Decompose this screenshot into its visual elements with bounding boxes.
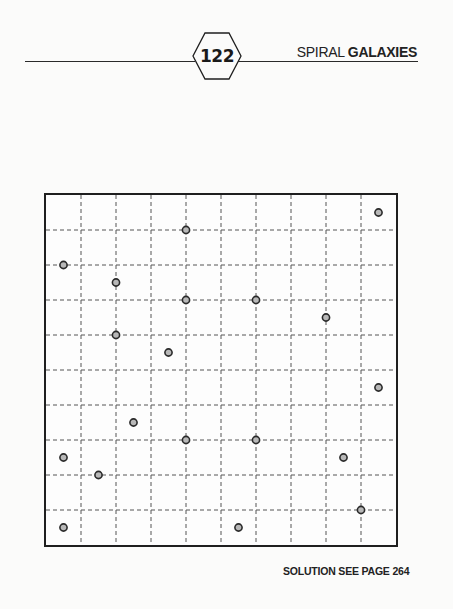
title-regular: SPIRAL xyxy=(297,44,348,60)
galaxy-center-dot xyxy=(340,454,347,461)
galaxy-center-dot xyxy=(182,436,189,443)
galaxy-center-dot xyxy=(112,279,119,286)
galaxy-center-dot xyxy=(182,296,189,303)
galaxy-center-dot xyxy=(60,524,67,531)
galaxy-center-dot xyxy=(95,471,102,478)
galaxy-center-dot xyxy=(252,296,259,303)
solution-reference: SOLUTION SEE PAGE 264 xyxy=(283,565,409,577)
header-rule-left xyxy=(25,61,195,62)
galaxy-center-dot xyxy=(322,314,329,321)
grid-canvas[interactable] xyxy=(46,195,396,545)
galaxy-center-dot xyxy=(112,331,119,338)
header-rule-right xyxy=(238,61,418,62)
galaxy-center-dot xyxy=(60,454,67,461)
page-title: SPIRAL GALAXIES xyxy=(297,44,417,60)
galaxy-center-dot xyxy=(130,419,137,426)
galaxy-center-dot xyxy=(165,349,172,356)
galaxy-center-dot xyxy=(252,436,259,443)
galaxy-center-dot xyxy=(60,261,67,268)
galaxy-center-dot xyxy=(375,209,382,216)
page-number-badge: 122 xyxy=(192,32,242,80)
title-bold: GALAXIES xyxy=(348,44,417,60)
page-number: 122 xyxy=(192,32,242,80)
galaxy-center-dot xyxy=(357,506,364,513)
galaxy-center-dot xyxy=(375,384,382,391)
galaxy-center-dot xyxy=(235,524,242,531)
galaxy-center-dot xyxy=(182,226,189,233)
puzzle-grid[interactable] xyxy=(44,193,398,547)
